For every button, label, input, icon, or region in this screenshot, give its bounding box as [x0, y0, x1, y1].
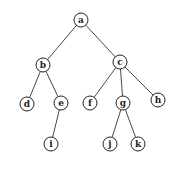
edge-c-f [94, 68, 116, 98]
node-label: h [155, 95, 162, 105]
node-label: a [78, 15, 84, 25]
node-h: h [151, 93, 165, 107]
node-c: c [113, 55, 127, 69]
edge-e-i [53, 110, 60, 137]
edge-b-d [30, 71, 41, 97]
node-b: b [36, 58, 50, 72]
node-label: i [49, 139, 53, 149]
edge-c-g [121, 69, 123, 96]
edge-b-e [46, 71, 58, 96]
node-label: b [40, 60, 46, 70]
node-a: a [74, 13, 88, 27]
node-d: d [20, 97, 34, 111]
edge-a-c [86, 25, 115, 57]
node-k: k [131, 137, 145, 151]
tree-edges [30, 25, 153, 137]
tree-diagram: abcdefghijk [0, 0, 183, 171]
node-label: d [24, 99, 31, 109]
node-label: e [58, 98, 64, 108]
edge-g-k [125, 110, 135, 138]
node-label: j [107, 139, 111, 149]
node-label: c [117, 57, 123, 67]
node-label: k [135, 139, 142, 149]
node-j: j [103, 137, 117, 151]
edge-a-b [48, 25, 77, 59]
tree-nodes: abcdefghijk [20, 13, 165, 151]
node-i: i [44, 137, 58, 151]
edge-c-h [125, 67, 153, 95]
node-label: g [120, 98, 127, 108]
edge-g-j [112, 110, 121, 138]
node-e: e [54, 96, 68, 110]
node-f: f [83, 96, 97, 110]
node-g: g [116, 96, 130, 110]
